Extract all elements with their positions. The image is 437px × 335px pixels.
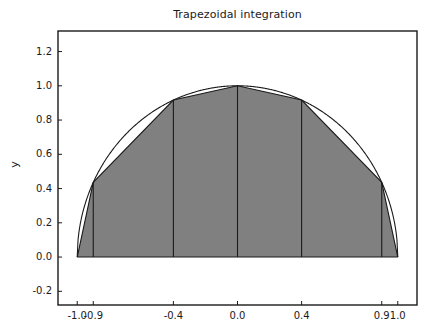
y-tick-label: 1.0 [18,80,52,91]
y-tick-label: 0.8 [18,114,52,125]
y-tick-label: -0.2 [18,285,52,296]
figure-canvas: Trapezoidal integration y -1.0- [0,0,437,335]
plot-area [0,0,437,335]
x-tick-label: 0.0 [218,310,258,321]
y-tick-label: 0.4 [18,183,52,194]
y-tick-label: 0.0 [18,251,52,262]
y-tick-label: 0.2 [18,217,52,228]
x-tick-label: -0.4 [153,310,193,321]
y-tick-label: 1.2 [18,46,52,57]
x-tick-label: 0.4 [282,310,322,321]
y-tick-label: 0.6 [18,148,52,159]
x-tick-label: 1.0 [378,310,418,321]
x-tick-label: -0.9 [73,310,113,321]
